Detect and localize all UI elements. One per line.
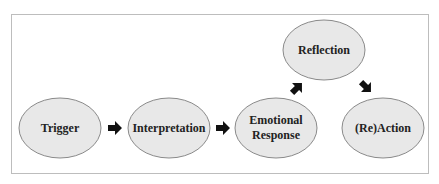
arrow-right-icon bbox=[216, 121, 230, 135]
flow-diagram: Trigger Interpretation Emotional Respons… bbox=[0, 0, 439, 184]
node-emotional-response-label-line2: Response bbox=[252, 128, 301, 142]
node-reflection: Reflection bbox=[283, 20, 365, 80]
node-interpretation-label: Interpretation bbox=[132, 121, 205, 135]
node-interpretation: Interpretation bbox=[128, 98, 210, 158]
node-emotional-response-label-line1: Emotional bbox=[249, 113, 303, 127]
node-trigger-label: Trigger bbox=[41, 121, 80, 135]
node-reaction: (Re)Action bbox=[342, 98, 424, 158]
arrow-up-right-icon bbox=[287, 78, 307, 98]
node-emotional-response: Emotional Response bbox=[235, 98, 317, 158]
arrow-right-icon bbox=[108, 121, 122, 135]
node-reflection-label: Reflection bbox=[298, 43, 350, 57]
node-reaction-label: (Re)Action bbox=[355, 121, 411, 135]
arrow-down-right-icon bbox=[356, 77, 376, 97]
node-trigger: Trigger bbox=[19, 98, 101, 158]
